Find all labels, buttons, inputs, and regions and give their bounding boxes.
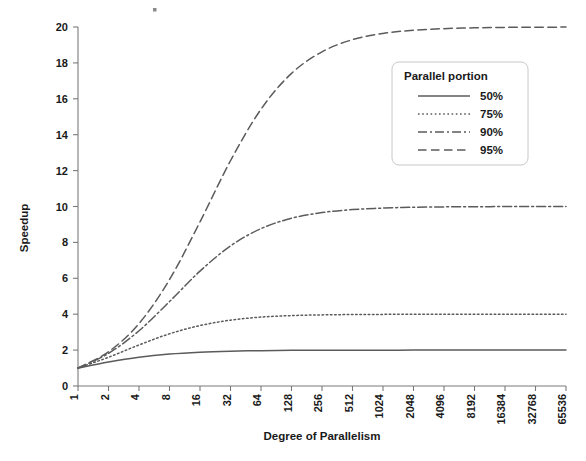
x-tick-label: 1024 <box>373 393 385 418</box>
x-tick-label: 512 <box>343 394 355 412</box>
legend-label-95pct: 95% <box>480 144 503 156</box>
amdahls-law-line-chart: 02468101214161820 1248163264128256512102… <box>0 0 586 461</box>
y-tick-label: 4 <box>62 308 69 320</box>
chart-legend[interactable]: Parallel portion 50%75%90%95% <box>392 62 528 165</box>
x-axis-title: Degree of Parallelism <box>264 430 381 442</box>
y-tick-label: 6 <box>62 272 68 284</box>
x-tick-label: 1 <box>68 394 80 400</box>
x-tick-label: 8192 <box>465 394 477 418</box>
legend-title-text: Parallel portion <box>404 70 488 82</box>
y-tick-label: 14 <box>56 129 69 141</box>
y-tick-label: 18 <box>56 57 68 69</box>
y-tick-label: 8 <box>62 236 68 248</box>
x-tick-label: 16 <box>190 394 202 406</box>
y-tick-label: 2 <box>62 344 68 356</box>
x-tick-label: 2 <box>99 394 111 400</box>
x-tick-label: 16384 <box>495 393 507 424</box>
x-tick-label: 64 <box>251 393 263 406</box>
x-tick-label: 4096 <box>434 394 446 418</box>
y-axis-title: Speedup <box>18 204 30 253</box>
legend-label-90pct: 90% <box>480 126 503 138</box>
y-tick-label: 0 <box>62 380 68 392</box>
y-tick-label: 20 <box>56 21 68 33</box>
chart-page: 02468101214161820 1248163264128256512102… <box>0 0 586 461</box>
x-tick-label: 4 <box>129 393 141 400</box>
scan-artifact-speck <box>153 8 157 12</box>
x-tick-label: 32 <box>221 394 233 406</box>
x-tick-label: 256 <box>312 394 324 412</box>
y-tick-label: 10 <box>56 201 68 213</box>
x-tick-label: 8 <box>160 394 172 400</box>
x-tick-label: 65536 <box>556 394 568 425</box>
legend-label-75pct: 75% <box>480 108 503 120</box>
x-tick-label: 2048 <box>404 394 416 418</box>
y-axis-title-text: Speedup <box>18 204 30 253</box>
legend-label-50pct: 50% <box>480 90 503 102</box>
x-tick-label: 32768 <box>526 394 538 425</box>
y-tick-label: 12 <box>56 165 68 177</box>
x-axis-title-text: Degree of Parallelism <box>264 430 381 442</box>
x-tick-label: 128 <box>282 394 294 412</box>
y-tick-label: 16 <box>56 93 68 105</box>
